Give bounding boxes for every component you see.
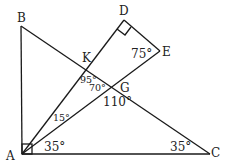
- right-angle-marker-d: [117, 27, 131, 35]
- segments: [21, 20, 210, 154]
- label-point-a: A: [5, 149, 15, 163]
- angle-label-kag: 15°: [53, 112, 70, 123]
- label-point-c: C: [211, 146, 220, 160]
- label-point-d: D: [119, 4, 129, 18]
- angle-label-e: 75°: [131, 47, 152, 61]
- segment-ab: [21, 26, 22, 154]
- label-point-e: E: [162, 45, 171, 59]
- angle-label-kga: 70°: [89, 82, 106, 93]
- angle-label-gac: 35°: [44, 140, 65, 154]
- segment-bc: [21, 26, 210, 154]
- label-point-b: B: [17, 11, 26, 25]
- segment-ad: [22, 20, 124, 154]
- segment-ae: [22, 51, 160, 154]
- label-point-k: K: [82, 51, 92, 65]
- label-point-g: G: [120, 81, 130, 95]
- angle-label-c: 35°: [170, 140, 191, 154]
- angle-label-agc: 110°: [103, 95, 132, 109]
- geometry-diagram: B D E K G A C 75° 95° 70° 110° 15° 35° 3…: [0, 0, 229, 165]
